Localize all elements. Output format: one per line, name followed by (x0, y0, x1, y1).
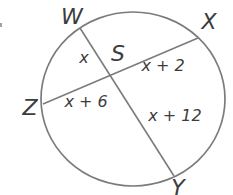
segment-label-zs: x + 6 (63, 92, 107, 111)
point-label-s: S (111, 41, 125, 66)
segment-label-sy: x + 12 (147, 106, 201, 125)
point-label-w: W (61, 4, 84, 29)
segment-label-sx: x + 2 (140, 56, 184, 75)
point-label-z: Z (21, 95, 38, 120)
point-label-y: Y (171, 175, 186, 195)
segment-label-ws: x (78, 48, 89, 67)
edge-artifact-mark (0, 23, 2, 27)
point-label-x: X (200, 9, 217, 34)
geometry-diagram: W X Z Y S x x + 2 x + 6 x + 12 (0, 0, 233, 195)
circle-chords-figure: W X Z Y S x x + 2 x + 6 x + 12 (0, 0, 233, 195)
